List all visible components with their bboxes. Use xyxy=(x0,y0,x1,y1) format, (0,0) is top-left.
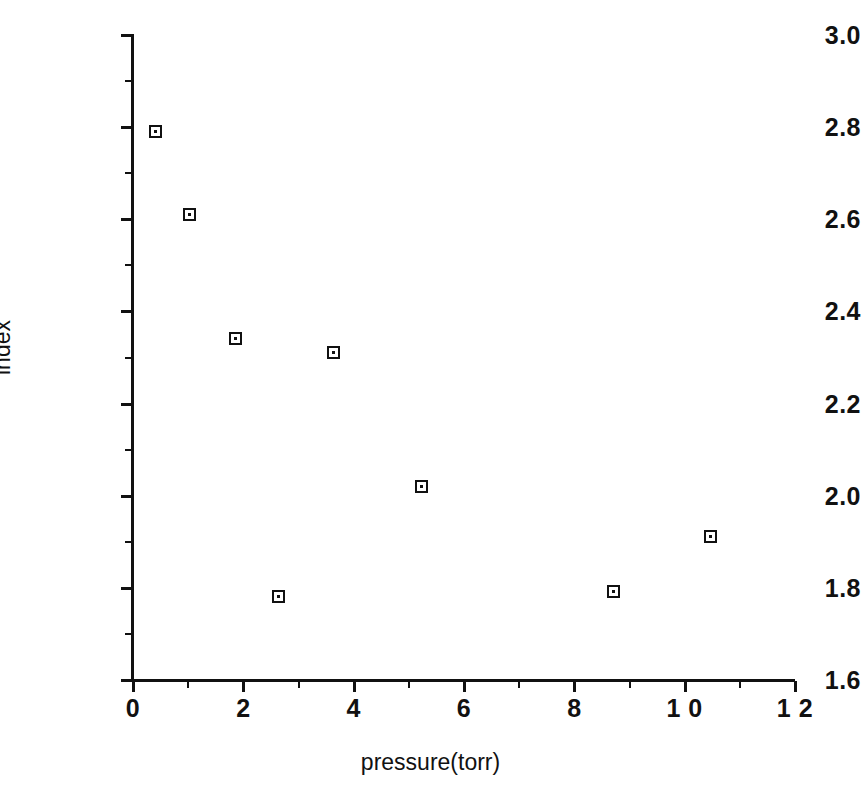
marker-center-dot xyxy=(188,213,191,216)
y-axis-tick-label: 1.8 xyxy=(743,573,861,602)
y-axis-tick-label: 2.8 xyxy=(743,113,861,142)
x-axis-major-tick xyxy=(684,681,687,692)
y-axis-major-tick xyxy=(121,310,132,313)
marker-inner-ring xyxy=(706,532,715,541)
x-axis-tick-label: 8 xyxy=(567,694,581,723)
x-axis-minor-tick xyxy=(739,681,741,688)
data-point-marker xyxy=(415,480,428,493)
x-axis-minor-tick xyxy=(629,681,631,688)
marker-center-dot xyxy=(612,590,615,593)
y-axis-minor-tick xyxy=(125,172,132,174)
marker-inner-ring xyxy=(329,348,338,357)
data-point-marker xyxy=(183,208,196,221)
y-axis-minor-tick xyxy=(125,264,132,266)
x-axis-tick-label: 6 xyxy=(457,694,471,723)
x-axis-major-tick xyxy=(353,681,356,692)
y-axis-major-tick xyxy=(121,495,132,498)
y-axis-tick-label: 1.6 xyxy=(743,666,861,695)
y-axis-major-tick xyxy=(121,587,132,590)
y-axis-minor-tick xyxy=(125,357,132,359)
y-axis-major-tick xyxy=(121,403,132,406)
x-axis-major-tick xyxy=(242,681,245,692)
x-axis-major-tick xyxy=(463,681,466,692)
data-point-marker xyxy=(704,530,717,543)
x-axis-tick-label: 1 0 xyxy=(667,694,703,723)
x-axis-tick-label: 2 xyxy=(236,694,250,723)
x-axis-minor-tick xyxy=(298,681,300,688)
data-point-marker xyxy=(272,590,285,603)
x-axis-major-tick xyxy=(132,681,135,692)
x-axis-minor-tick xyxy=(187,681,189,688)
x-axis-tick-label: 0 xyxy=(126,694,140,723)
x-axis-minor-tick xyxy=(518,681,520,688)
y-axis-minor-tick xyxy=(125,80,132,82)
data-point-marker xyxy=(327,346,340,359)
marker-inner-ring xyxy=(231,334,240,343)
marker-center-dot xyxy=(420,485,423,488)
y-axis-tick-label: 2.4 xyxy=(743,297,861,326)
marker-center-dot xyxy=(277,595,280,598)
marker-inner-ring xyxy=(151,127,160,136)
data-point-marker xyxy=(607,585,620,598)
y-axis-major-tick xyxy=(121,218,132,221)
marker-center-dot xyxy=(709,535,712,538)
x-axis-title: pressure(torr) xyxy=(0,749,861,776)
marker-inner-ring xyxy=(417,482,426,491)
x-axis-tick-label: 4 xyxy=(346,694,360,723)
y-axis-title: index xyxy=(0,320,16,375)
y-axis-minor-tick xyxy=(125,541,132,543)
data-point-marker xyxy=(149,125,162,138)
y-axis-tick-label: 3.0 xyxy=(743,21,861,50)
marker-center-dot xyxy=(234,337,237,340)
marker-inner-ring xyxy=(274,592,283,601)
marker-center-dot xyxy=(332,351,335,354)
y-axis-major-tick xyxy=(121,126,132,129)
x-axis-major-tick xyxy=(573,681,576,692)
marker-center-dot xyxy=(154,130,157,133)
data-point-marker xyxy=(229,332,242,345)
marker-inner-ring xyxy=(185,210,194,219)
y-axis-minor-tick xyxy=(125,633,132,635)
y-axis-major-tick xyxy=(121,679,132,682)
y-axis-tick-label: 2.6 xyxy=(743,205,861,234)
scatter-plot-figure: 1.61.82.02.22.42.62.83.0 024681 01 2 pre… xyxy=(0,0,861,807)
x-axis-major-tick xyxy=(794,681,797,692)
y-axis-tick-label: 2.2 xyxy=(743,389,861,418)
x-axis-tick-label: 1 2 xyxy=(777,694,813,723)
y-axis-tick-label: 2.0 xyxy=(743,481,861,510)
x-axis-minor-tick xyxy=(408,681,410,688)
y-axis-major-tick xyxy=(121,34,132,37)
y-axis-minor-tick xyxy=(125,449,132,451)
marker-inner-ring xyxy=(609,587,618,596)
